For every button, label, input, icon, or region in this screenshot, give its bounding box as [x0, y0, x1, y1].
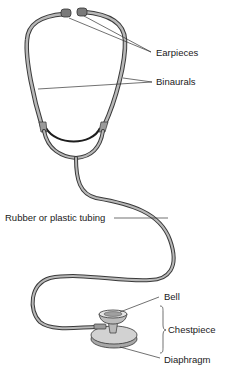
label-diaphragm: Diaphragm — [164, 354, 211, 365]
rubber-tubing — [33, 131, 174, 328]
earpieces — [61, 8, 87, 17]
chestpiece — [91, 310, 137, 348]
leader-lines — [38, 16, 168, 358]
left-earpiece — [61, 9, 71, 17]
label-bell: Bell — [164, 291, 180, 302]
binaurals — [27, 12, 125, 126]
label-tubing: Rubber or plastic tubing — [5, 212, 105, 223]
stethoscope-diagram: Earpieces Binaurals Rubber or plastic tu… — [0, 0, 227, 369]
label-chestpiece: Chestpiece — [168, 324, 216, 335]
label-earpieces: Earpieces — [156, 47, 198, 58]
right-earpiece — [77, 8, 87, 16]
tension-spring — [46, 128, 100, 142]
label-binaurals: Binaurals — [156, 76, 196, 87]
